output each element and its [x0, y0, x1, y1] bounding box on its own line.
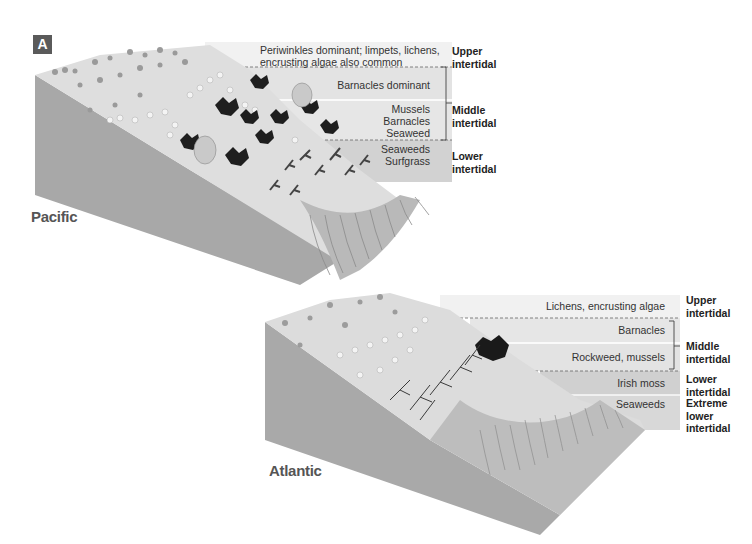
atlantic-band-irish-moss-text: Irish moss: [560, 377, 665, 389]
atlantic-zone-middle-line2: intertidal: [686, 353, 730, 366]
atlantic-zone-extreme-line3: intertidal: [686, 422, 730, 435]
atlantic-band-seaweeds-text: Seaweeds: [560, 398, 665, 410]
pacific-band-upper-line2: encrusting algae also common: [260, 56, 440, 68]
atlantic-zone-extreme-lower: Extreme lower intertidal: [686, 397, 730, 435]
pacific-zone-upper-line2: intertidal: [452, 58, 496, 71]
pacific-band-lower-text: Seaweeds Surfgrass: [330, 143, 430, 167]
atlantic-zone-middle: Middle intertidal: [686, 340, 730, 365]
atlantic-zone-lower-line1: Lower: [686, 373, 730, 386]
atlantic-band-lichens-text: Lichens, encrusting algae: [520, 300, 665, 312]
pacific-band-upper-line1: Periwinkles dominant; limpets, lichens,: [260, 44, 440, 56]
atlantic-zone-lower: Lower intertidal: [686, 373, 730, 398]
region-label-pacific: Pacific: [31, 208, 77, 225]
atlantic-zone-extreme-line2: lower: [686, 410, 730, 423]
atlantic-zone-upper: Upper intertidal: [686, 294, 730, 319]
atlantic-zone-upper-line2: intertidal: [686, 307, 730, 320]
pacific-band-lower-line1: Seaweeds: [330, 143, 430, 155]
pacific-zone-upper-line1: Upper: [452, 45, 496, 58]
pacific-band-mussels-line1: Mussels: [330, 103, 430, 115]
region-label-atlantic: Atlantic: [269, 462, 322, 479]
atlantic-zone-extreme-line1: Extreme: [686, 397, 730, 410]
atlantic-band-barnacles-text: Barnacles: [560, 324, 665, 336]
pacific-zone-middle: Middle intertidal: [452, 104, 496, 129]
pacific-band-mussels-line2: Barnacles: [330, 115, 430, 127]
pacific-zone-middle-line2: intertidal: [452, 117, 496, 130]
pacific-zone-lower: Lower intertidal: [452, 150, 496, 175]
pacific-zone-lower-line1: Lower: [452, 150, 496, 163]
atlantic-zone-middle-line1: Middle: [686, 340, 730, 353]
pacific-zone-middle-line1: Middle: [452, 104, 496, 117]
panel-label-badge: A: [33, 35, 52, 54]
pacific-band-mussels-text: Mussels Barnacles Seaweed: [330, 103, 430, 139]
pacific-band-barnacles-text: Barnacles dominant: [290, 79, 430, 91]
pacific-zone-lower-line2: intertidal: [452, 163, 496, 176]
pacific-band-upper-text: Periwinkles dominant; limpets, lichens, …: [260, 44, 440, 68]
pacific-zone-upper: Upper intertidal: [452, 45, 496, 70]
pacific-band-lower-line2: Surfgrass: [330, 155, 430, 167]
atlantic-band-rockweed-text: Rockweed, mussels: [540, 351, 665, 363]
atlantic-zone-upper-line1: Upper: [686, 294, 730, 307]
pacific-band-mussels-line3: Seaweed: [330, 127, 430, 139]
